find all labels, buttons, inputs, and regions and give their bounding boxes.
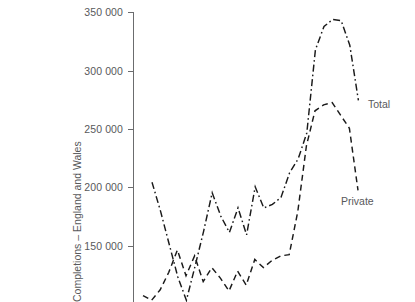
line-chart: 350 000 300 000 250 000 200 000 150 000 … [0,0,415,302]
y-tick-label-200000: 200 000 [45,182,123,193]
series-label-total: Total [368,99,390,110]
y-tick-label-300000: 300 000 [45,66,123,77]
y-tick-label-350000: 350 000 [45,7,123,18]
plot-area [0,0,415,302]
series-line-private [143,103,358,301]
series-line-total [152,20,358,301]
y-tick-label-150000: 150 000 [45,241,123,252]
y-tick-label-250000: 250 000 [45,124,123,135]
series-label-private: Private [341,196,374,207]
y-axis-title: Completions – England and Wales [72,141,83,302]
